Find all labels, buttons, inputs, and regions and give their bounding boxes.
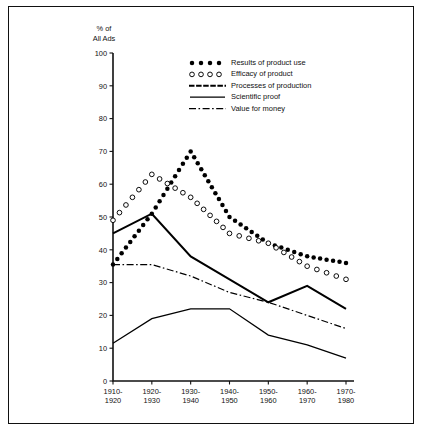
y-tick-label: 0 (103, 377, 107, 386)
x-tick-label: 1970- (337, 387, 356, 396)
y-tick-label: 20 (99, 311, 107, 320)
line-chart: 0102030405060708090100% ofAll Ads1910-19… (0, 0, 424, 432)
legend-swatch (190, 72, 222, 77)
y-tick-label: 90 (99, 82, 107, 91)
y-tick-label: 50 (99, 213, 107, 222)
legend-label: Results of product use (231, 58, 306, 67)
x-tick-label: 1960- (298, 387, 317, 396)
x-tick-label: 1930 (144, 396, 160, 405)
svg-text:% of: % of (97, 24, 113, 33)
legend-label: Value for money (231, 104, 285, 113)
x-tick-label: 1950- (259, 387, 278, 396)
legend-item[interactable]: Results of product use (190, 58, 306, 67)
chart-series-group (111, 149, 349, 358)
series-efficacy-of-product (111, 172, 349, 282)
chart-container: 0102030405060708090100% ofAll Ads1910-19… (0, 0, 424, 432)
x-tick-label: 1980 (338, 396, 354, 405)
x-tick-label: 1960 (260, 396, 276, 405)
y-tick-label: 10 (99, 344, 107, 353)
legend-label: Processes of production (231, 81, 311, 90)
legend-label: Efficacy of product (231, 69, 293, 78)
series-results-of-product-use (111, 149, 349, 267)
legend-item[interactable]: Efficacy of product (190, 69, 294, 78)
series-processes-of-production (113, 214, 346, 309)
legend-label: Scientific proof (231, 92, 281, 101)
y-axis-ticks: 0102030405060708090100 (95, 49, 113, 386)
x-tick-label: 1970 (299, 396, 315, 405)
svg-text:All Ads: All Ads (93, 34, 116, 43)
x-tick-label: 1910- (104, 387, 123, 396)
series-value-for-money (113, 265, 346, 329)
y-tick-label: 100 (95, 49, 107, 58)
x-tick-label: 1920 (105, 396, 121, 405)
y-axis-title: % ofAll Ads (93, 24, 116, 43)
legend-swatch (190, 61, 222, 66)
y-tick-label: 40 (99, 246, 107, 255)
y-tick-label: 30 (99, 278, 107, 287)
chart-legend: Results of product useEfficacy of produc… (189, 58, 311, 113)
y-tick-label: 80 (99, 114, 107, 123)
chart-axes (113, 53, 354, 381)
y-tick-label: 70 (99, 147, 107, 156)
legend-item[interactable]: Processes of production (189, 81, 311, 90)
y-tick-label: 60 (99, 180, 107, 189)
x-tick-label: 1930- (181, 387, 200, 396)
legend-item[interactable]: Value for money (189, 104, 285, 113)
x-tick-label: 1920- (142, 387, 161, 396)
x-tick-label: 1940- (220, 387, 239, 396)
legend-item[interactable]: Scientific proof (190, 92, 281, 101)
x-tick-label: 1950 (221, 396, 237, 405)
x-tick-label: 1940 (182, 396, 198, 405)
x-axis-ticks: 1910-19201920-19301930-19401940-19501950… (104, 381, 356, 405)
